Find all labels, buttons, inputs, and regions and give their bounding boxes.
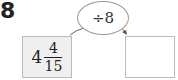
fraction-denominator: 15 bbox=[44, 59, 62, 74]
answer-box[interactable] bbox=[125, 36, 175, 78]
operation-bubble: ÷8 bbox=[77, 1, 129, 35]
fraction: 4 15 bbox=[44, 41, 62, 74]
operation-label: ÷8 bbox=[92, 9, 114, 27]
input-box: 4 4 15 bbox=[22, 36, 72, 78]
mixed-number-whole: 4 bbox=[32, 47, 43, 67]
fraction-numerator: 4 bbox=[49, 41, 58, 56]
